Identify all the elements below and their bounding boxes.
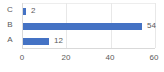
category-label-a: A	[2, 34, 18, 46]
bar-row[interactable]: 54	[22, 19, 155, 34]
bar-b[interactable]	[22, 23, 142, 30]
bar-value-label: 12	[54, 35, 63, 47]
category-label-c: C	[2, 4, 18, 16]
category-label-b: B	[2, 19, 18, 31]
x-tick-label-60: 60	[144, 52, 164, 64]
x-tick-label-40: 40	[100, 52, 120, 64]
bar-row[interactable]: 12	[22, 34, 155, 49]
plot-area: 2 54 12	[22, 3, 155, 48]
bar-value-label: 2	[31, 5, 35, 17]
bar-row[interactable]: 2	[22, 4, 155, 19]
x-tick-label-20: 20	[56, 52, 76, 64]
bar-value-label: 54	[147, 20, 156, 32]
bar-a[interactable]	[22, 38, 49, 45]
x-axis-line	[22, 48, 155, 49]
y-axis-line	[22, 3, 23, 49]
bar-chart: 2 54 12 C B A 0 20 40 60	[0, 0, 164, 72]
x-tick-label-0: 0	[12, 52, 32, 64]
